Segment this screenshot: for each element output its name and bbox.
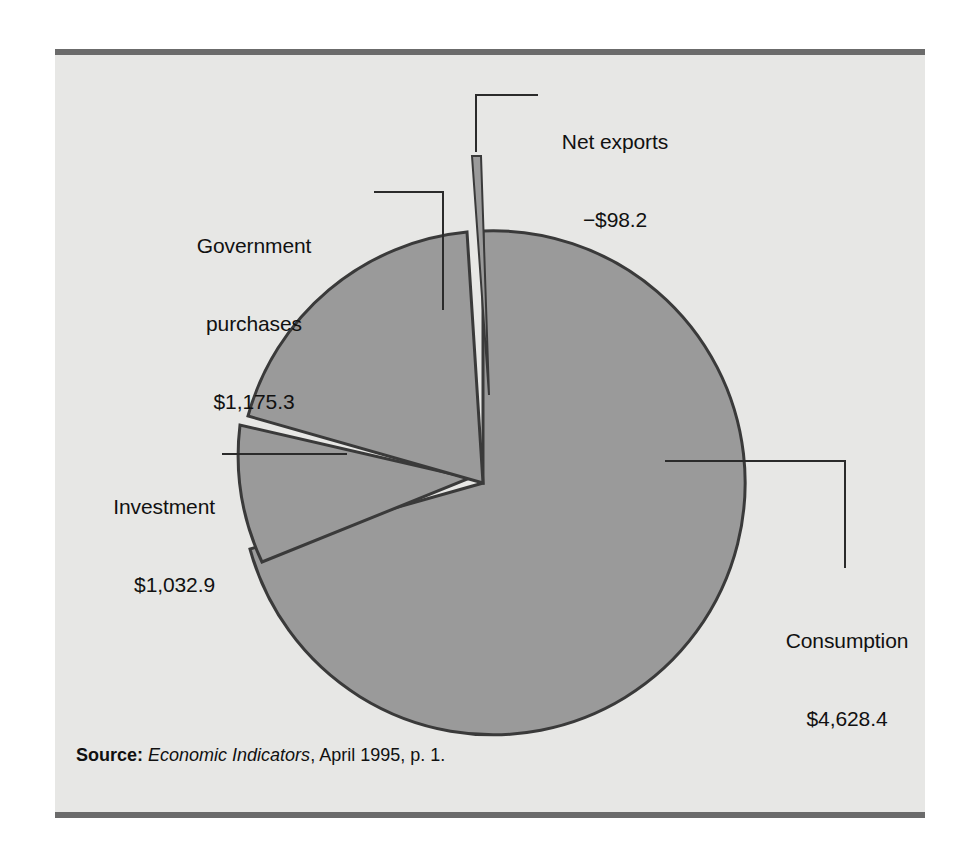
figure-container: Net exports −$98.2 Government purchases … — [0, 0, 960, 847]
source-note: Source: Economic Indicators, April 1995,… — [76, 745, 445, 766]
slice-label-government-purchases: Government purchases $1,175.3 — [138, 181, 370, 467]
slice-label-government-purchases-name1: Government — [138, 233, 370, 259]
slice-label-investment: Investment $1,032.9 — [40, 442, 215, 650]
source-rest: , April 1995, p. 1. — [310, 745, 445, 765]
slice-label-consumption-value: $4,628.4 — [752, 706, 942, 732]
slice-label-government-purchases-name2: purchases — [138, 311, 370, 337]
slice-label-investment-name: Investment — [40, 494, 215, 520]
slice-label-government-purchases-value: $1,175.3 — [138, 389, 370, 415]
slice-label-consumption: Consumption $4,628.4 — [752, 576, 942, 784]
slice-label-investment-value: $1,032.9 — [40, 572, 215, 598]
source-label: Source: — [76, 745, 143, 765]
slice-label-consumption-name: Consumption — [752, 628, 942, 654]
source-publication: Economic Indicators — [148, 745, 310, 765]
slice-label-net-exports: Net exports −$98.2 — [505, 77, 725, 285]
slice-label-net-exports-name: Net exports — [505, 129, 725, 155]
slice-label-net-exports-value: −$98.2 — [505, 207, 725, 233]
